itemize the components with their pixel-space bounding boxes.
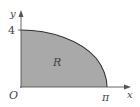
x-axis-label: x — [127, 89, 133, 100]
region-r — [21, 30, 107, 87]
y-axis-arrow-icon — [19, 10, 24, 17]
x-tick-label-pi: π — [101, 91, 110, 104]
region-label: R — [52, 56, 61, 69]
y-axis-label: y — [9, 8, 16, 19]
origin-label: O — [9, 89, 18, 102]
diagram-canvas: y 4 O π x R — [0, 0, 140, 107]
y-tick-label: 4 — [8, 24, 15, 37]
